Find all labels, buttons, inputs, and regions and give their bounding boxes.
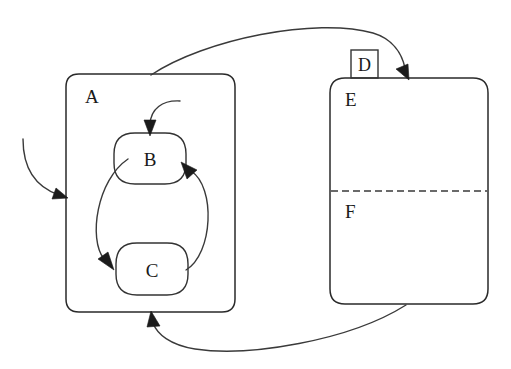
transition-B-to-C[interactable]	[96, 159, 128, 270]
transition-B-to-C-path	[96, 159, 128, 259]
transition-B-to-C-arrowhead	[98, 252, 114, 270]
state-D-label: D	[358, 55, 371, 75]
transition-initial-to-B[interactable]	[144, 101, 180, 136]
transition-initial-to-A-path	[23, 139, 59, 195]
state-C-label: C	[146, 260, 159, 281]
statechart-diagram: A B C E F D	[0, 0, 511, 369]
diagram-canvas: A B C E F D	[0, 0, 511, 369]
region-F-label: F	[345, 201, 356, 222]
state-B[interactable]: B	[114, 133, 186, 184]
transition-C-to-B[interactable]	[181, 162, 208, 270]
transition-E-to-A-arrowhead	[147, 311, 160, 327]
state-D[interactable]: D	[351, 50, 378, 78]
state-A-label: A	[85, 86, 99, 107]
state-E-label: E	[345, 89, 357, 110]
region-F: F	[345, 201, 356, 222]
transition-C-to-B-path	[186, 171, 208, 270]
state-C[interactable]: C	[116, 243, 188, 295]
transition-initial-to-A[interactable]	[23, 139, 68, 199]
state-B-label: B	[144, 149, 157, 170]
